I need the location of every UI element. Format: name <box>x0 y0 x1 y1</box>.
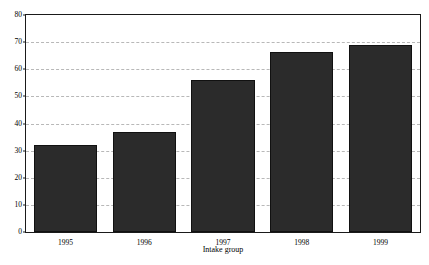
y-tick-label: 70 <box>15 38 23 46</box>
y-tick-label: 20 <box>15 174 23 182</box>
bar <box>34 145 97 232</box>
y-tick-label: 50 <box>15 93 23 101</box>
bar <box>113 132 176 232</box>
plot-area: 01020304050607080 19951996199719981999 <box>25 14 421 233</box>
bar <box>191 80 254 232</box>
bar <box>270 52 333 232</box>
y-tick-label: 30 <box>15 147 23 155</box>
y-tick-label: 80 <box>15 11 23 19</box>
x-axis-title: Intake group <box>25 246 421 254</box>
y-tick-label: 10 <box>15 201 23 209</box>
bar <box>349 45 412 232</box>
y-tick-label: 0 <box>18 228 22 236</box>
y-tick-label: 40 <box>15 120 23 128</box>
bar-chart: 01020304050607080 19951996199719981999 I… <box>0 0 429 265</box>
bars-layer <box>26 15 420 232</box>
y-tick-label: 60 <box>15 66 23 74</box>
